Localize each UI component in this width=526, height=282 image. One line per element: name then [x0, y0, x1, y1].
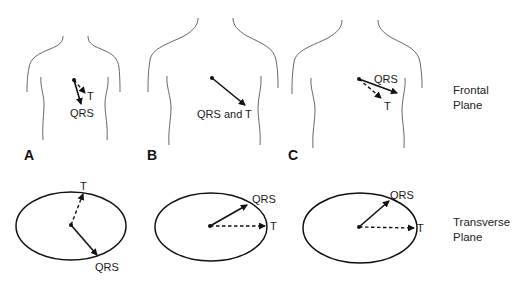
t-label-a-transverse: T: [80, 180, 87, 192]
qrs-vector-b-transverse: [210, 205, 247, 226]
row-label-transverse: Transverse Plane: [453, 216, 510, 243]
svg-text:Transverse: Transverse: [453, 216, 510, 228]
qrs-label-c-frontal: QRS: [374, 73, 398, 85]
t-label-c-frontal: T: [384, 100, 391, 112]
svg-text:Frontal: Frontal: [453, 84, 489, 96]
svg-text:Plane: Plane: [453, 231, 482, 243]
t-label-b-transverse: T: [270, 220, 277, 232]
qrs-label-a-transverse: QRS: [95, 261, 119, 273]
t-vector-c-transverse: [359, 227, 414, 228]
qrs-label-c-transverse: QRS: [390, 189, 414, 201]
qrs-label-a-frontal: QRS: [70, 107, 94, 119]
frontal-vectors-b: QRS and T: [197, 76, 252, 120]
svg-text:Plane: Plane: [453, 99, 482, 111]
t-label-a-frontal: T: [87, 90, 94, 102]
torso-c: [292, 20, 422, 148]
panel-label-a: A: [24, 147, 34, 163]
panel-label-c: C: [288, 147, 298, 163]
t-vector-a-transverse: [71, 194, 83, 225]
qrs-vector-c-transverse: [359, 201, 389, 227]
qrs-and-t-vector-b-frontal: [212, 78, 245, 105]
qrs-label-b-transverse: QRS: [252, 193, 276, 205]
panel-label-b: B: [147, 147, 157, 163]
torso-b: [148, 18, 278, 145]
transverse-c: QRS T: [303, 189, 424, 263]
row-label-frontal: Frontal Plane: [453, 84, 489, 111]
qrs-vector-a-transverse: [71, 225, 97, 255]
frontal-vectors-a: T QRS: [70, 78, 94, 119]
qrs-vector-a-frontal: [74, 80, 81, 104]
torso-a: [27, 36, 120, 140]
transverse-a: T QRS: [16, 180, 126, 273]
t-label-c-transverse: T: [417, 222, 424, 234]
qrs-and-t-label-b-frontal: QRS and T: [197, 108, 252, 120]
frontal-vectors-c: QRS T: [357, 73, 398, 112]
transverse-b: QRS T: [155, 193, 277, 261]
ecg-vector-figure: T QRS A QRS and T B QRS T C Frontal Plan…: [0, 0, 526, 282]
